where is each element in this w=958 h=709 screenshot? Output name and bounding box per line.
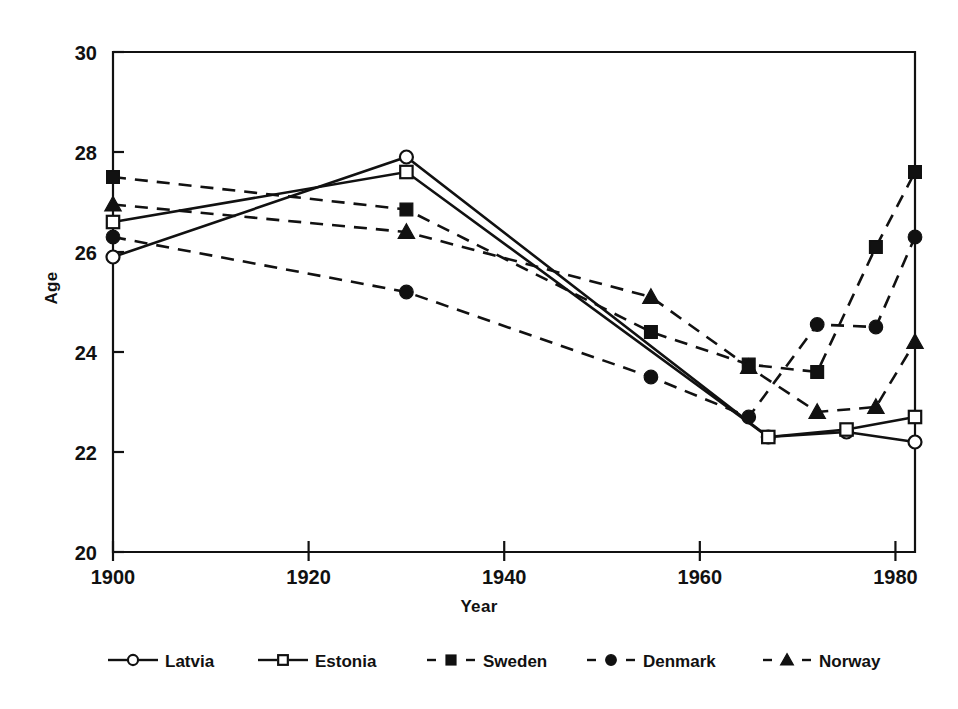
- y-tick-label: 30: [75, 42, 97, 64]
- data-point-marker: [909, 436, 922, 449]
- data-point-marker: [606, 655, 617, 666]
- chart-plot-area: 20222426283019001920194019601980: [0, 0, 958, 620]
- chart-legend: LatviaEstoniaSwedenDenmarkNorway: [0, 636, 958, 696]
- data-point-marker: [105, 196, 121, 211]
- legend-label: Norway: [819, 652, 881, 671]
- legend-label: Denmark: [643, 652, 716, 671]
- data-point-marker: [106, 230, 120, 244]
- data-point-marker: [400, 203, 413, 216]
- x-tick-label: 1940: [482, 566, 527, 588]
- data-point-marker: [762, 431, 774, 443]
- legend-label: Sweden: [483, 652, 547, 671]
- series-line: [113, 172, 915, 437]
- series-line: [113, 237, 915, 417]
- x-tick-label: 1920: [286, 566, 331, 588]
- x-tick-label: 1960: [678, 566, 723, 588]
- x-tick-label: 1980: [873, 566, 918, 588]
- data-point-marker: [908, 230, 922, 244]
- data-point-marker: [811, 366, 824, 379]
- x-tick-label: 1900: [91, 566, 136, 588]
- series-norway: [105, 196, 923, 418]
- data-point-marker: [909, 166, 922, 179]
- series-line: [113, 157, 915, 442]
- legend-item-norway[interactable]: Norway: [763, 652, 881, 671]
- data-point-marker: [869, 320, 883, 334]
- axes: [113, 52, 915, 552]
- data-point-marker: [107, 216, 119, 228]
- data-point-marker: [742, 410, 756, 424]
- data-point-marker: [868, 399, 884, 414]
- data-point-marker: [128, 655, 138, 665]
- series-latvia: [107, 151, 922, 449]
- legend-item-estonia[interactable]: Estonia: [258, 652, 377, 671]
- x-axis-title: Year: [0, 597, 958, 617]
- data-point-marker: [810, 318, 824, 332]
- y-tick-label: 24: [75, 342, 98, 364]
- data-point-marker: [107, 171, 120, 184]
- data-point-marker: [400, 151, 413, 164]
- legend-label: Latvia: [165, 652, 215, 671]
- data-point-marker: [781, 654, 794, 665]
- legend-item-sweden[interactable]: Sweden: [427, 652, 547, 671]
- data-point-marker: [645, 326, 658, 339]
- tick-labels: 20222426283019001920194019601980: [75, 42, 918, 588]
- data-point-marker: [907, 334, 923, 349]
- data-point-marker: [869, 241, 882, 254]
- data-point-marker: [107, 251, 120, 264]
- y-tick-label: 26: [75, 242, 97, 264]
- data-point-marker: [909, 411, 921, 423]
- chart-figure: 20222426283019001920194019601980 Age Yea…: [0, 0, 958, 709]
- series-denmark: [106, 230, 922, 424]
- data-series: [105, 151, 923, 449]
- series-line: [113, 205, 915, 413]
- data-point-marker: [840, 423, 852, 435]
- y-axis-title: Age: [42, 248, 62, 328]
- data-point-marker: [278, 655, 288, 665]
- data-point-marker: [400, 285, 414, 299]
- data-point-marker: [400, 166, 412, 178]
- data-point-marker: [446, 655, 456, 665]
- legend-label: Estonia: [315, 652, 377, 671]
- y-tick-label: 20: [75, 542, 97, 564]
- y-tick-label: 28: [75, 142, 97, 164]
- series-sweden: [107, 166, 922, 379]
- data-point-marker: [644, 370, 658, 384]
- legend-item-latvia[interactable]: Latvia: [108, 652, 215, 671]
- tick-marks: [113, 52, 895, 561]
- legend-item-denmark[interactable]: Denmark: [587, 652, 716, 671]
- data-point-marker: [643, 289, 659, 304]
- y-tick-label: 22: [75, 442, 97, 464]
